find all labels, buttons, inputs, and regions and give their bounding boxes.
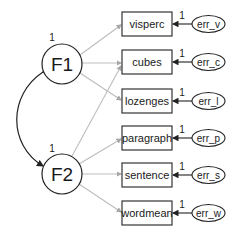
covariance-arc: [17, 72, 43, 166]
error-label: err_l: [198, 96, 218, 107]
error-err-w: err_w 1: [179, 199, 225, 222]
error-loading-label: 1: [179, 10, 185, 21]
indicator-sentence: sentence: [122, 163, 172, 187]
error-loading-label: 1: [179, 48, 185, 59]
error-loading-label: 1: [179, 124, 185, 135]
error-err-l: err_l 1: [179, 87, 225, 110]
error-err-p: err_p 1: [179, 124, 225, 147]
factor-variance-label: 1: [49, 143, 55, 154]
indicator-paragraph: paragraph: [122, 126, 172, 150]
error-label: err_c: [197, 57, 220, 68]
path-f1-visperc: [80, 25, 121, 55]
indicator-label: sentence: [125, 169, 170, 181]
indicator-visperc: visperc: [122, 12, 172, 36]
indicator-cubes: cubes: [122, 50, 172, 74]
error-loading-label: 1: [179, 87, 185, 98]
indicator-wordmean: wordmean: [120, 201, 172, 225]
error-label: err_w: [196, 208, 222, 219]
indicator-lozenges: lozenges: [122, 89, 172, 113]
indicator-label: cubes: [132, 56, 162, 68]
error-label: err_p: [197, 133, 221, 144]
indicator-label: paragraph: [122, 132, 172, 144]
factor-f1: F1 1: [42, 32, 82, 84]
error-label: err_s: [197, 170, 220, 181]
error-err-c: err_c 1: [179, 48, 225, 71]
indicator-label: wordmean: [120, 207, 172, 219]
indicator-label: lozenges: [125, 95, 170, 107]
factor-variance-label: 1: [49, 32, 55, 43]
factor-f2: F2 1: [42, 143, 82, 194]
sem-diagram: F1 1 F2 1 visperc cubes lozenges paragra…: [0, 0, 240, 237]
path-f2-wordmean: [79, 184, 121, 212]
path-f2-cubes: [72, 66, 121, 156]
error-loading-label: 1: [179, 199, 185, 210]
path-f2-paragraph: [79, 139, 121, 164]
error-err-s: err_s 1: [179, 161, 225, 184]
error-err-v: err_v 1: [179, 10, 225, 33]
factor-label: F1: [51, 54, 73, 75]
error-loading-label: 1: [179, 161, 185, 172]
indicator-label: visperc: [130, 18, 165, 30]
error-label: err_v: [197, 19, 220, 30]
factor-label: F2: [51, 164, 73, 185]
